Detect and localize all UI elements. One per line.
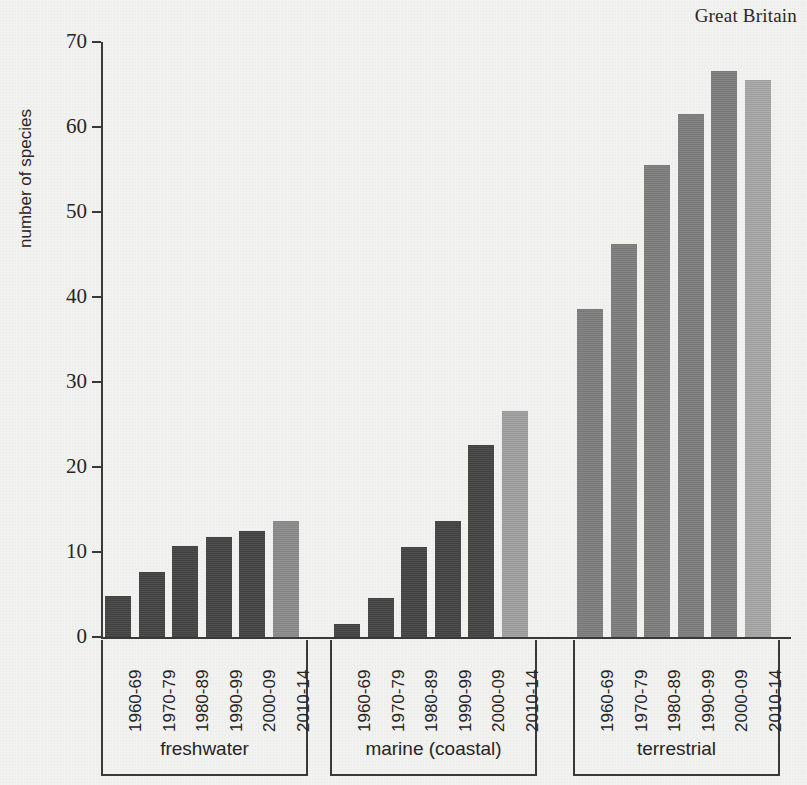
bar — [435, 521, 461, 638]
y-axis-tick-mark — [92, 636, 101, 638]
y-axis-tick-label: 20 — [66, 454, 87, 479]
y-axis-tick-label: 70 — [66, 29, 87, 54]
period-label: 1970-79 — [389, 622, 409, 732]
category-group-marine-coastal-: 1960-691970-791980-891990-992000-092010-… — [330, 640, 537, 776]
y-axis-tick-mark — [92, 381, 101, 383]
period-label: 1990-99 — [456, 622, 476, 732]
y-axis-tick-label: 10 — [66, 539, 87, 564]
y-axis-tick-mark — [92, 466, 101, 468]
habitat-group-label: terrestrial — [575, 738, 778, 760]
period-label: 2010-14 — [294, 622, 314, 732]
period-label: 2000-09 — [260, 622, 280, 732]
chart-figure: Great Britain number of species 01020304… — [0, 0, 807, 785]
habitat-group-label: freshwater — [103, 738, 306, 760]
period-label: 1970-79 — [160, 622, 180, 732]
y-axis-tick-label: 0 — [77, 624, 88, 649]
bar-group-freshwater — [103, 42, 306, 638]
bar — [273, 521, 299, 638]
plot-area — [101, 42, 791, 638]
period-label: 1970-79 — [632, 622, 652, 732]
period-label: 2000-09 — [489, 622, 509, 732]
region-caption: Great Britain — [695, 5, 797, 27]
y-axis-tick-label: 40 — [66, 284, 87, 309]
bar — [502, 411, 528, 638]
y-axis-tick-mark — [92, 126, 101, 128]
period-label: 2010-14 — [523, 622, 543, 732]
period-label: 1960-69 — [355, 622, 375, 732]
period-label: 1960-69 — [598, 622, 618, 732]
habitat-group-label: marine (coastal) — [332, 738, 535, 760]
category-group-freshwater: 1960-691970-791980-891990-992000-092010-… — [101, 640, 308, 776]
y-axis-tick-mark — [92, 551, 101, 553]
period-label: 1980-89 — [422, 622, 442, 732]
period-label: 1980-89 — [193, 622, 213, 732]
y-axis-tick-mark — [92, 296, 101, 298]
period-label: 2010-14 — [766, 622, 786, 732]
y-axis-title: number of species — [16, 48, 36, 248]
y-axis-tick-label: 50 — [66, 199, 87, 224]
bar-group-terrestrial — [575, 42, 778, 638]
bar — [468, 445, 494, 638]
bar-group-marine-coastal- — [332, 42, 535, 638]
bar — [678, 114, 704, 638]
bar — [745, 80, 771, 638]
period-label: 1990-99 — [227, 622, 247, 732]
period-label: 1990-99 — [699, 622, 719, 732]
category-group-terrestrial: 1960-691970-791980-891990-992000-092010-… — [573, 640, 780, 776]
y-axis-tick-mark — [92, 41, 101, 43]
y-axis-tick-mark — [92, 211, 101, 213]
bar — [611, 244, 637, 638]
y-axis-tick-label: 60 — [66, 114, 87, 139]
period-label: 2000-09 — [732, 622, 752, 732]
period-label: 1980-89 — [665, 622, 685, 732]
period-label: 1960-69 — [126, 622, 146, 732]
bar — [711, 71, 737, 638]
bar — [577, 309, 603, 638]
y-axis-tick-label: 30 — [66, 369, 87, 394]
bar — [644, 165, 670, 638]
